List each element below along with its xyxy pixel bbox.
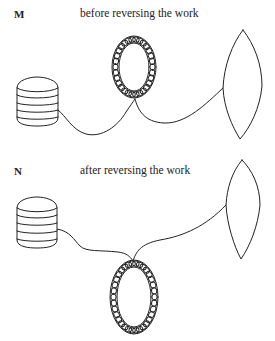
lens-shape-icon <box>223 30 262 139</box>
panel-m-drawing <box>17 30 262 139</box>
stitch-ring-icon <box>112 36 156 98</box>
diagram-canvas <box>0 0 275 341</box>
yarn-strand-right <box>133 205 226 261</box>
panel-n-drawing <box>17 160 260 334</box>
yarn-strand-left <box>58 99 135 135</box>
stitch-loop <box>132 37 139 43</box>
yarn-strand-left <box>57 229 133 261</box>
yarn-ball-icon <box>17 77 58 126</box>
yarn-strand-right <box>135 88 223 123</box>
stitch-loop <box>111 294 116 300</box>
stitch-loop <box>152 294 157 300</box>
ring-inner-edge <box>117 267 151 327</box>
ring-inner-edge <box>119 43 149 91</box>
yarn-ball-icon <box>17 197 57 248</box>
lens-shape-icon <box>226 160 260 259</box>
stitch-ring-icon <box>110 260 158 334</box>
stitch-loop <box>129 91 136 97</box>
